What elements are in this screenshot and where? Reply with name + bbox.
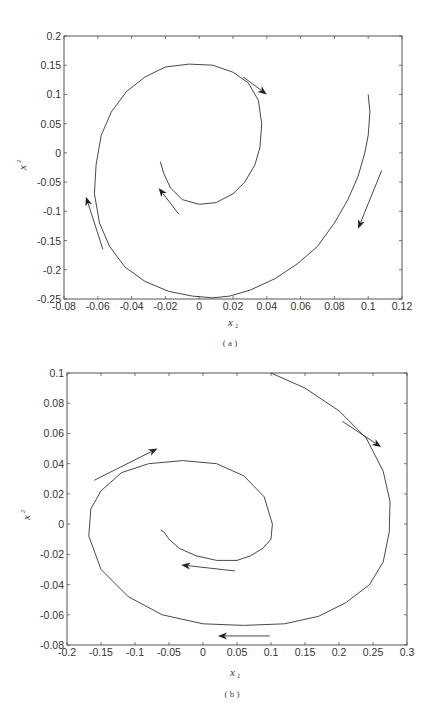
panel-caption: ( a ) bbox=[223, 338, 238, 348]
x-tick-label: 0.04 bbox=[257, 300, 278, 312]
x-tick-label: 0.15 bbox=[295, 646, 316, 658]
x-tick-label: 0.12 bbox=[392, 300, 413, 312]
x-tick-label: -0.06 bbox=[86, 300, 110, 312]
arrow-head-icon bbox=[148, 449, 158, 456]
x-tick-label: 0.06 bbox=[290, 300, 311, 312]
y-tick-label: -0.04 bbox=[40, 579, 64, 591]
arrow-shaft bbox=[163, 193, 179, 214]
x-tick-label: 0.3 bbox=[400, 646, 415, 658]
direction-arrows bbox=[85, 77, 381, 249]
y-tick-label: -0.06 bbox=[40, 609, 64, 621]
x-ticks: -0.2-0.15-0.1-0.0500.050.10.150.20.250.3 bbox=[58, 373, 414, 658]
x-axis-label: x1 bbox=[227, 316, 238, 329]
x-tick-label: 0 bbox=[196, 300, 202, 312]
x-tick-label: -0.05 bbox=[157, 646, 181, 658]
x-tick-label: -0.04 bbox=[120, 300, 144, 312]
chart-panel-a: -0.08-0.06-0.04-0.0200.020.040.060.080.1… bbox=[16, 30, 412, 348]
y-ticks: -0.25-0.2-0.15-0.1-0.0500.050.10.150.2 bbox=[37, 30, 402, 305]
x-tick-label: -0.02 bbox=[153, 300, 177, 312]
y-tick-label: 0.08 bbox=[44, 397, 65, 409]
y-axis-label: x2 bbox=[16, 159, 28, 171]
chart-panel-b: -0.2-0.15-0.1-0.0500.050.10.150.20.250.3… bbox=[20, 367, 414, 699]
arrow-head-icon bbox=[159, 188, 167, 197]
y-tick-label: -0.08 bbox=[40, 639, 64, 651]
x-tick-label: 0.05 bbox=[227, 646, 248, 658]
y-axis-label: x2 bbox=[20, 509, 32, 521]
x-tick-label: -0.1 bbox=[126, 646, 144, 658]
y-tick-label: -0.1 bbox=[43, 205, 61, 217]
y-tick-label: 0.15 bbox=[41, 59, 62, 71]
x-tick-label: 0 bbox=[200, 646, 206, 658]
y-tick-label: -0.2 bbox=[43, 264, 61, 276]
x-tick-label: -0.15 bbox=[89, 646, 113, 658]
axes-frame bbox=[67, 373, 407, 645]
phase-trajectory-line bbox=[89, 373, 390, 625]
y-tick-label: -0.25 bbox=[37, 293, 61, 305]
figure-canvas: -0.08-0.06-0.04-0.0200.020.040.060.080.1… bbox=[0, 0, 436, 724]
arrow-shaft bbox=[243, 77, 261, 90]
y-tick-label: -0.15 bbox=[37, 235, 61, 247]
y-tick-label: -0.05 bbox=[37, 176, 61, 188]
y-tick-label: 0.2 bbox=[46, 30, 61, 42]
y-tick-label: 0.04 bbox=[44, 458, 65, 470]
arrow-shaft bbox=[188, 566, 235, 571]
axes-frame bbox=[64, 36, 402, 299]
y-tick-label: -0.02 bbox=[40, 548, 64, 560]
y-tick-label: 0.02 bbox=[44, 488, 65, 500]
y-tick-label: 0.1 bbox=[46, 88, 61, 100]
x-axis-label: x1 bbox=[229, 666, 240, 679]
x-tick-label: 0.25 bbox=[363, 646, 384, 658]
x-tick-label: 0.1 bbox=[264, 646, 279, 658]
x-tick-label: 0.08 bbox=[324, 300, 345, 312]
x-tick-label: 0.1 bbox=[361, 300, 376, 312]
arrow-shaft bbox=[361, 170, 382, 222]
y-tick-label: 0.05 bbox=[41, 118, 62, 130]
phase-trajectory-line bbox=[94, 64, 370, 298]
panel-caption: ( b ) bbox=[225, 689, 240, 699]
y-tick-label: 0 bbox=[55, 147, 61, 159]
arrow-head-icon bbox=[372, 439, 381, 447]
y-tick-label: 0 bbox=[58, 518, 64, 530]
y-ticks: -0.08-0.06-0.04-0.0200.020.040.060.080.1 bbox=[40, 367, 407, 651]
x-tick-label: 0.2 bbox=[332, 646, 347, 658]
arrow-head-icon bbox=[257, 86, 266, 94]
x-tick-label: 0.02 bbox=[223, 300, 244, 312]
y-tick-label: 0.06 bbox=[44, 427, 65, 439]
y-tick-label: 0.1 bbox=[49, 367, 64, 379]
arrow-shaft bbox=[342, 421, 375, 443]
